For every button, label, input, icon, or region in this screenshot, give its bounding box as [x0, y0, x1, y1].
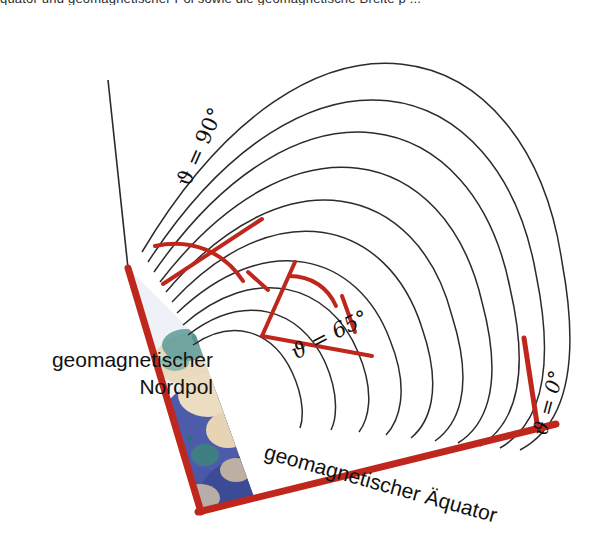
- label-geomagnetic-north-pole: geomagnetischer Nordpol: [8, 347, 213, 401]
- label-north-line2: Nordpol: [8, 374, 213, 401]
- angle-marker-90: [155, 219, 268, 290]
- equator-axis-line: [198, 424, 556, 512]
- label-north-line1: geomagnetischer: [8, 347, 213, 374]
- diagram-canvas: [0, 0, 599, 560]
- geomagnetic-field-diagram: quator und geomagnetischer Pol sowie die…: [0, 0, 599, 560]
- polar-axis-extension: [108, 80, 128, 268]
